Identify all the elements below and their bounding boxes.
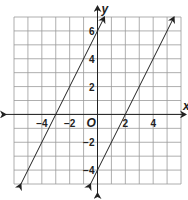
tick-labels: −4−224642−2−4 bbox=[36, 26, 156, 176]
x-tick-label: −4 bbox=[36, 118, 48, 129]
y-tick-label: 4 bbox=[89, 54, 95, 65]
x-tick-label: 4 bbox=[150, 118, 156, 129]
y-tick-label: −2 bbox=[83, 137, 95, 148]
y-tick-label: 6 bbox=[89, 26, 95, 37]
coordinate-plane: −4−224642−2−4 x y O bbox=[0, 0, 188, 200]
y-tick-label: 2 bbox=[89, 82, 95, 93]
origin-label: O bbox=[87, 116, 97, 130]
x-tick-label: 2 bbox=[123, 118, 129, 129]
y-axis-label: y bbox=[101, 2, 110, 16]
x-tick-label: −2 bbox=[64, 118, 76, 129]
y-tick-label: −4 bbox=[83, 165, 95, 176]
x-axis-label: x bbox=[182, 99, 188, 113]
